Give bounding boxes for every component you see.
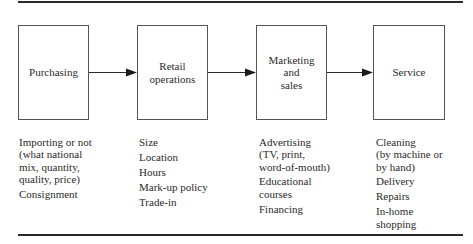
detail-item: Delivery <box>376 175 471 187</box>
details-purchasing: Importing or not (what national mix, qua… <box>19 136 129 203</box>
detail-item: Advertising (TV, print, word-of-mouth) <box>259 136 369 173</box>
detail-item: Location <box>139 151 249 163</box>
top-rule <box>18 1 463 3</box>
stage-label: Purchasing <box>29 66 78 79</box>
arrow-right-icon <box>208 68 256 77</box>
detail-item: Mark-up policy <box>139 181 249 193</box>
detail-item: Hours <box>139 166 249 178</box>
detail-item: Consignment <box>19 188 129 200</box>
details-service: Cleaning (by machine or by hand) Deliver… <box>376 136 471 232</box>
detail-item: Financing <box>259 203 369 215</box>
details-retail-operations: Size Location Hours Mark-up policy Trade… <box>139 136 249 210</box>
detail-item: Importing or not (what national mix, qua… <box>19 136 129 185</box>
stage-box-purchasing: Purchasing <box>18 25 89 120</box>
detail-item: Size <box>139 136 249 148</box>
bottom-rule <box>18 234 463 236</box>
arrow-right-icon <box>89 68 137 77</box>
details-marketing-and-sales: Advertising (TV, print, word-of-mouth) E… <box>259 136 369 218</box>
detail-item: Repairs <box>376 190 471 202</box>
detail-item: Trade-in <box>139 196 249 208</box>
stage-label: Retail operations <box>150 60 196 85</box>
stage-label: Marketing and sales <box>269 54 315 92</box>
detail-item: In-home shopping <box>376 205 471 230</box>
arrow-right-icon <box>327 68 373 77</box>
detail-item: Educational courses <box>259 175 369 200</box>
stage-label: Service <box>393 66 426 79</box>
detail-item: Cleaning (by machine or by hand) <box>376 136 471 173</box>
stage-box-retail-operations: Retail operations <box>137 25 208 120</box>
stage-box-marketing-and-sales: Marketing and sales <box>256 25 327 120</box>
stage-box-service: Service <box>373 25 445 120</box>
